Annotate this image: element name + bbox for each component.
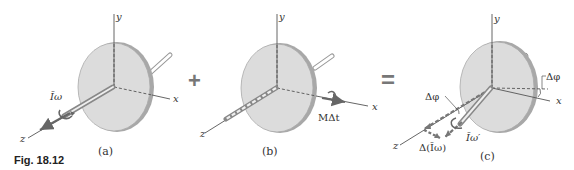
panel-c: y x Δφ z Δφ Īω′ Δ(Īω) (c) [392, 13, 562, 163]
z-axis-label: z [199, 128, 206, 139]
resulting-momentum-label: Īω′ [465, 132, 481, 143]
y-axis-label: y [278, 11, 285, 22]
delta-momentum-label: Δ(Īω) [419, 142, 446, 153]
caption-c: (c) [480, 150, 495, 163]
delta-phi-label-left: Δφ [425, 91, 439, 102]
plus-operator: + [188, 68, 201, 93]
panel-a: y x z Īω (a) [19, 11, 179, 158]
equals-operator: = [381, 66, 395, 93]
delta-phi-arc-right [538, 89, 541, 97]
z-axis-label: z [392, 140, 399, 151]
impulse-label: MΔt [318, 112, 339, 123]
caption-a: (a) [98, 145, 113, 158]
x-axis-label: x [372, 101, 378, 112]
figure-canvas: y x z Īω (a) + y x z [0, 0, 574, 170]
caption-b: (b) [262, 145, 278, 158]
x-axis-label: x [173, 93, 179, 104]
x-axis-label: x [556, 95, 562, 106]
z-axis-label: z [19, 133, 26, 144]
angular-momentum-vector [40, 113, 70, 130]
delta-phi-label-right: Δφ [546, 71, 560, 82]
figure-label: Fig. 18.12 [14, 154, 64, 166]
angular-momentum-label: Īω [49, 91, 62, 102]
y-axis-label: y [493, 13, 500, 24]
y-axis-label: y [115, 11, 122, 22]
panel-b: y x z MΔt (b) [199, 11, 378, 158]
disk-face [460, 42, 534, 132]
